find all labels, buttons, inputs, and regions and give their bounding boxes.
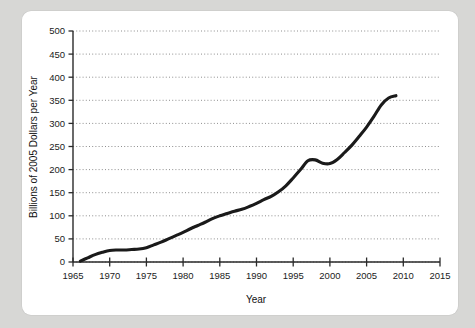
x-tick-label: 2010 — [393, 270, 414, 281]
x-tick-label: 1970 — [99, 270, 120, 281]
x-tick-label: 2015 — [429, 270, 450, 281]
y-tick-label: 450 — [49, 49, 65, 60]
y-tick-label: 500 — [49, 25, 65, 36]
y-tick-label: 400 — [49, 72, 65, 83]
x-tick-label: 1980 — [173, 270, 194, 281]
figure-root: 050100150200250300350400450500 196519701… — [0, 0, 475, 328]
x-tick-label: 1965 — [62, 270, 83, 281]
x-axis-ticks: 1965197019751980198519901995200020052010… — [62, 258, 450, 282]
x-tick-label: 2000 — [319, 270, 340, 281]
y-tick-label: 350 — [49, 95, 65, 106]
y-tick-label: 250 — [49, 141, 65, 152]
y-tick-label: 150 — [49, 187, 65, 198]
x-tick-label: 1990 — [246, 270, 267, 281]
y-axis-title: Billions of 2005 Dollars per Year — [28, 75, 39, 217]
x-tick-label: 1985 — [209, 270, 230, 281]
y-tick-label: 300 — [49, 118, 65, 129]
line-chart: 050100150200250300350400450500 196519701… — [22, 11, 458, 315]
x-tick-label: 2005 — [356, 270, 377, 281]
x-axis-title: Year — [246, 294, 267, 305]
y-tick-label: 50 — [54, 233, 65, 244]
y-tick-label: 0 — [60, 256, 65, 267]
x-tick-label: 1995 — [283, 270, 304, 281]
x-tick-label: 1975 — [136, 270, 157, 281]
data-series-line — [80, 96, 396, 261]
y-axis-ticks: 050100150200250300350400450500 — [49, 25, 73, 267]
y-tick-label: 100 — [49, 210, 65, 221]
gridlines — [73, 31, 440, 262]
chart-panel: 050100150200250300350400450500 196519701… — [22, 11, 458, 315]
y-tick-label: 200 — [49, 164, 65, 175]
